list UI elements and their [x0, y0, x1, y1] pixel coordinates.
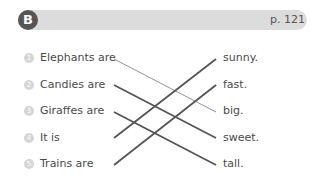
match-line-elephants-big: [114, 59, 216, 112]
match-line-giraffes-tall: [114, 112, 216, 165]
match-line-trains-fast: [114, 85, 216, 165]
match-line-candies-sweet: [114, 85, 216, 138]
match-line-itis-sunny: [114, 59, 216, 138]
matching-lines: [0, 0, 319, 184]
